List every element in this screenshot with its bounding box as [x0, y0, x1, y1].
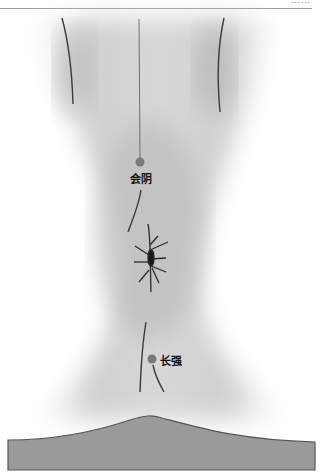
huiyin-label: 会阴 [130, 170, 152, 186]
anatomy-figure [0, 0, 327, 475]
surface-base [8, 416, 315, 470]
changqiang-point [148, 355, 157, 364]
changqiang-label: 长强 [160, 352, 182, 368]
huiyin-point [136, 158, 145, 167]
